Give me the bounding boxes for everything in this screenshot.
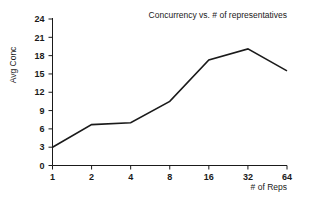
y-axis-ticks: 03691215182124 [34,14,52,171]
y-tick-label: 21 [34,33,44,43]
y-tick-label: 18 [34,51,44,61]
y-tick-label: 0 [39,161,44,171]
line-chart: Concurrency vs. # of representatives Avg… [0,0,310,200]
data-series-line [53,49,288,147]
chart-container: Concurrency vs. # of representatives Avg… [0,0,310,200]
y-axis-title: Avg Conc [8,46,18,83]
y-tick-label: 24 [34,14,44,24]
x-axis-ticks: 1248163264 [50,166,292,182]
x-tick-label: 32 [243,172,253,182]
y-tick-label: 6 [39,124,44,134]
x-tick-label: 64 [282,172,292,182]
x-tick-label: 4 [128,172,133,182]
chart-title: Concurrency vs. # of representatives [149,10,287,20]
y-tick-label: 15 [34,69,44,79]
x-tick-label: 16 [204,172,214,182]
y-tick-label: 9 [39,106,44,116]
y-tick-label: 12 [34,87,44,97]
x-tick-label: 1 [50,172,55,182]
x-tick-label: 2 [89,172,94,182]
y-tick-label: 3 [39,142,44,152]
x-axis-title: # of Reps [251,182,287,192]
x-tick-label: 8 [167,172,172,182]
